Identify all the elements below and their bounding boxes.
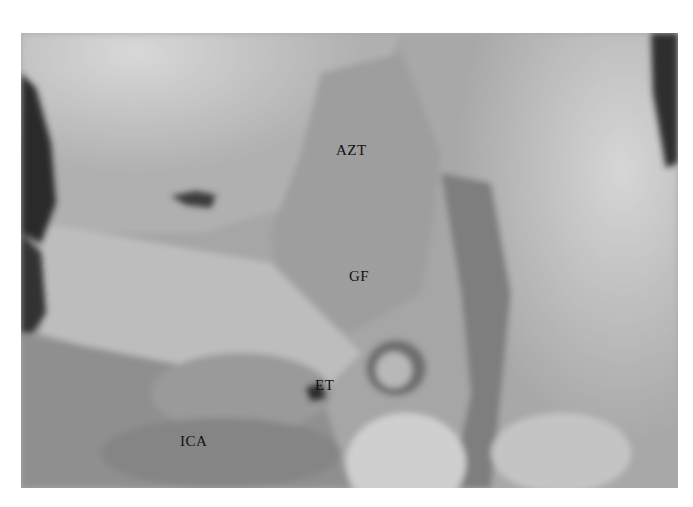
label-gf: GF bbox=[349, 268, 369, 285]
label-azt: AZT bbox=[336, 142, 367, 159]
dissection-photo bbox=[21, 33, 678, 488]
label-ica: ICA bbox=[180, 433, 207, 450]
photo-rendering bbox=[21, 33, 678, 488]
label-et: ET bbox=[315, 377, 334, 394]
